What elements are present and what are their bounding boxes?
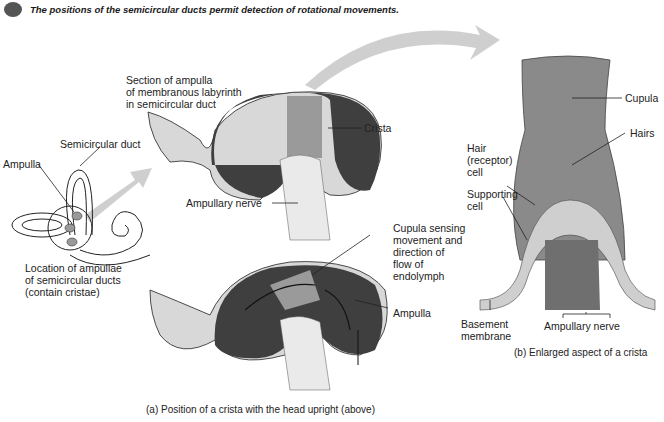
label-ampullary-nerve-a: Ampullary nerve: [186, 197, 262, 209]
location-caption: Location of ampullae of semicircular duc…: [25, 262, 122, 298]
label-ampullary-nerve-b: Ampullary nerve: [544, 320, 620, 332]
label-crista: Crista: [364, 122, 391, 134]
key-icon: [4, 2, 22, 17]
label-basement-membrane: Basement membrane: [461, 318, 511, 342]
label-ampulla-lower: Ampulla: [393, 307, 431, 319]
label-ampulla-left: Ampulla: [3, 158, 41, 170]
ampulla-section-upper: [148, 92, 381, 240]
ampulla-section-lower: [150, 262, 387, 390]
label-hair-cell: Hair (receptor) cell: [467, 142, 513, 178]
caption-b: (b) Enlarged aspect of a crista: [514, 347, 647, 359]
arrow-to-enlarged: [305, 25, 500, 90]
label-hairs: Hairs: [630, 127, 655, 139]
section-caption: Section of ampulla of membranous labyrin…: [126, 74, 242, 110]
label-supporting-cell: Supporting cell: [467, 188, 518, 212]
caption-a: (a) Position of a crista with the head u…: [146, 404, 375, 416]
label-cupula: Cupula: [625, 92, 658, 104]
label-semicircular-duct: Semicircular duct: [60, 138, 141, 150]
label-cupula-sensing: Cupula sensing movement and direction of…: [393, 222, 465, 282]
page-title: The positions of the semicircular ducts …: [30, 4, 399, 15]
